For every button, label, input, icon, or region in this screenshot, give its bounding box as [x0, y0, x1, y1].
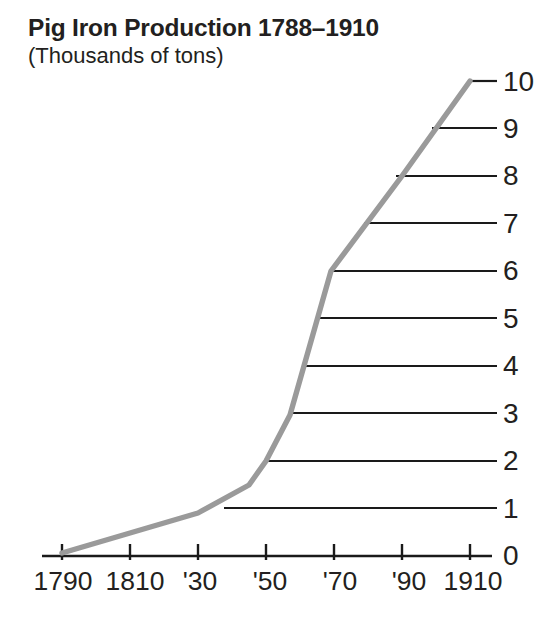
gridlines — [224, 81, 497, 508]
x-tick-label-1790: 1790 — [34, 566, 93, 596]
x-tick-label-1910: 1910 — [444, 566, 503, 596]
y-tick-label-6: 6 — [503, 255, 519, 286]
x-tick-labels: 1790 1810 '30 '50 '70 '90 1910 — [34, 566, 503, 596]
y-tick-labels: 10 9 8 7 6 5 4 3 2 1 0 — [503, 66, 534, 571]
x-tick-label-1890: '90 — [392, 566, 427, 596]
x-axis — [42, 544, 492, 560]
y-tick-label-4: 4 — [503, 350, 519, 381]
y-tick-label-5: 5 — [503, 303, 519, 334]
x-tick-label-1870: '70 — [323, 566, 358, 596]
x-tick-label-1830: '30 — [183, 566, 218, 596]
y-tick-label-8: 8 — [503, 160, 519, 191]
y-tick-label-3: 3 — [503, 398, 519, 429]
chart-figure: Pig Iron Production 1788–1910 (Thousands… — [0, 0, 548, 619]
y-tick-label-1: 1 — [503, 493, 519, 524]
chart-plot-area: 10 9 8 7 6 5 4 3 2 1 0 1790 1810 '30 '50… — [0, 0, 548, 619]
x-tick-label-1810: 1810 — [106, 566, 165, 596]
y-tick-label-0: 0 — [503, 540, 519, 571]
y-tick-label-2: 2 — [503, 445, 519, 476]
y-tick-label-10: 10 — [503, 66, 534, 97]
x-tick-label-1850: '50 — [253, 566, 288, 596]
y-tick-label-9: 9 — [503, 113, 519, 144]
y-tick-label-7: 7 — [503, 208, 519, 239]
